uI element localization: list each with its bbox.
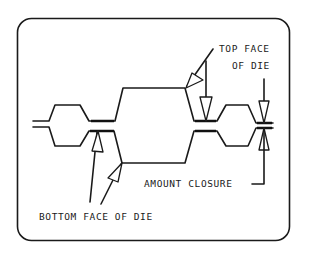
- top-die-profile: [33, 88, 273, 123]
- top-face-pointer: [186, 49, 213, 121]
- bottom-die-profile: [33, 127, 273, 163]
- amount-closure-label: AMOUNT CLOSURE: [144, 178, 232, 189]
- top-face-label-line2: OF DIE: [232, 60, 270, 71]
- bottom-die-face-thick: [90, 128, 272, 131]
- die-closure-diagram: TOP FACE OF DIE AMOUNT CLOSURE BOTTOM FA…: [0, 0, 309, 256]
- bottom-face-label: BOTTOM FACE OF DIE: [39, 211, 153, 222]
- top-face-label-line1: TOP FACE: [219, 43, 270, 54]
- top-die-face-thick: [91, 121, 272, 123]
